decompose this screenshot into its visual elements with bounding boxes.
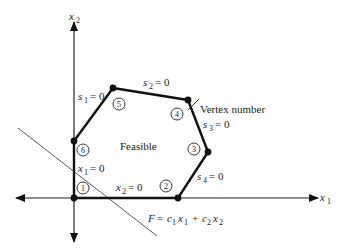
constraint-x2-label: x 2 = 0 [115,181,143,196]
svg-text:x: x [77,162,83,174]
svg-text:= 0: = 0 [128,181,143,193]
svg-text:1: 1 [84,168,88,177]
vertex-label-3: 3 [188,143,200,155]
feasible-region-diagram: 1 2 3 4 5 6 Vertex number Feasible x 2 x… [0,0,340,250]
svg-text:x: x [68,10,74,22]
vertex-label-2: 2 [160,180,172,192]
svg-text:2: 2 [76,16,80,25]
svg-text:=: = [157,212,163,224]
constraint-s3-label: s 3 = 0 [203,118,230,133]
svg-text:1: 1 [184,218,188,227]
svg-text:1: 1 [172,218,176,227]
feasible-region-label: Feasible [120,140,157,152]
svg-text:2: 2 [207,218,211,227]
svg-text:1: 1 [327,197,331,206]
vertex-label-4: 4 [171,108,183,120]
vertex-label-1: 1 [77,182,89,194]
constraint-s2-label: s 2 = 0 [143,76,170,91]
svg-text:= 0: = 0 [155,76,170,88]
svg-text:2: 2 [219,218,223,227]
svg-text:1: 1 [84,96,88,105]
svg-text:5: 5 [117,100,121,109]
vertex-number-annotation: Vertex number [200,103,265,115]
svg-text:1: 1 [81,184,85,193]
svg-text:4: 4 [203,176,207,185]
svg-text:= 0: = 0 [90,162,105,174]
constraint-s4-label: s 4 = 0 [197,170,224,185]
svg-text:s: s [203,118,207,130]
svg-text:F: F [147,212,155,224]
svg-text:s: s [143,76,147,88]
svg-text:x: x [319,191,325,203]
svg-text:2: 2 [149,82,153,91]
constraint-x1-label: x 1 = 0 [77,162,105,177]
svg-text:= 0: = 0 [209,170,224,182]
vertex-label-6: 6 [77,144,89,156]
svg-text:= 0: = 0 [90,90,105,102]
svg-text:= 0: = 0 [215,118,230,130]
svg-text:x: x [177,212,183,224]
svg-text:3: 3 [192,145,196,154]
objective-function-label: F = c 1 x 1 + c 2 x 2 [147,212,223,227]
svg-text:2: 2 [122,187,126,196]
svg-text:x: x [115,181,121,193]
x1-axis-label: x 1 [319,191,331,206]
svg-text:x: x [212,212,218,224]
svg-text:4: 4 [175,110,179,119]
svg-text:2: 2 [164,182,168,191]
svg-text:3: 3 [209,124,213,133]
svg-text:s: s [78,90,82,102]
vertex-label-5: 5 [113,98,125,110]
svg-text:s: s [197,170,201,182]
svg-text:+: + [192,212,198,224]
svg-text:6: 6 [81,146,85,155]
